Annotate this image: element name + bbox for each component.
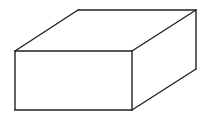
cuboid [15, 10, 196, 110]
cuboid-diagram [0, 0, 207, 119]
front-face [15, 51, 132, 110]
